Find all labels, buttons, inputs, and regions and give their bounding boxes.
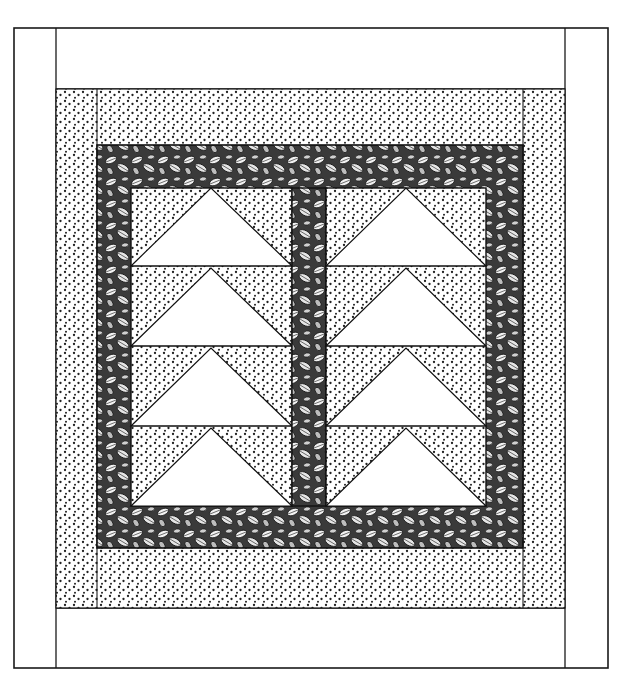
center-sashing xyxy=(292,188,326,506)
geese-column-right xyxy=(326,188,486,506)
geese-column-left xyxy=(131,188,292,506)
quilt-diagram xyxy=(0,0,628,686)
